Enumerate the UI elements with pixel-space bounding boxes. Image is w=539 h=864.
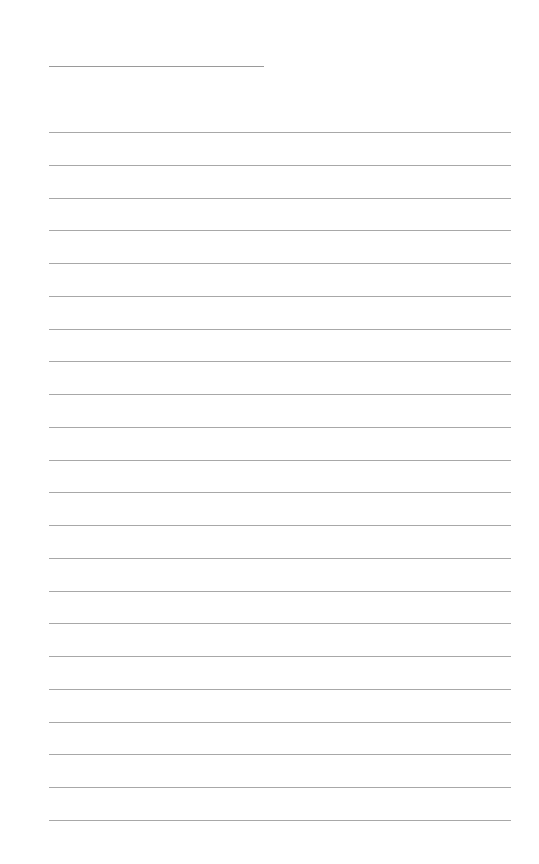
ruled-line (49, 722, 511, 723)
ruled-line (49, 591, 511, 592)
ruled-line (49, 787, 511, 788)
ruled-line (49, 263, 511, 264)
ruled-line (49, 558, 511, 559)
ruled-line (49, 427, 511, 428)
ruled-line (49, 525, 511, 526)
ruled-line (49, 329, 511, 330)
ruled-line (49, 492, 511, 493)
ruled-line (49, 394, 511, 395)
ruled-line (49, 623, 511, 624)
ruled-line (49, 165, 511, 166)
ruled-line (49, 460, 511, 461)
ruled-line (49, 361, 511, 362)
ruled-line (49, 230, 511, 231)
ruled-line (49, 754, 511, 755)
ruled-line (49, 296, 511, 297)
ruled-line (49, 820, 511, 821)
ruled-line (49, 132, 511, 133)
ruled-line (49, 689, 511, 690)
ruled-line (49, 198, 511, 199)
ruled-line (49, 656, 511, 657)
title-line (49, 66, 264, 67)
